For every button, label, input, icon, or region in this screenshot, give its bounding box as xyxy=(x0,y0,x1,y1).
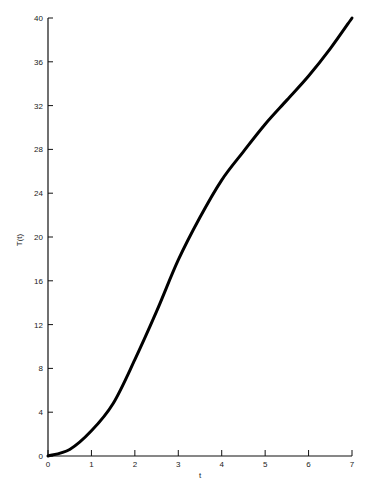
y-tick-label: 4 xyxy=(39,408,44,417)
x-tick-label: 3 xyxy=(176,460,181,469)
x-tick-label: 1 xyxy=(89,460,94,469)
y-tick-label: 8 xyxy=(39,364,44,373)
y-tick-label: 0 xyxy=(39,452,44,461)
x-tick-label: 7 xyxy=(350,460,355,469)
x-tick-label: 0 xyxy=(46,460,51,469)
y-axis-title: T(t) xyxy=(15,233,24,246)
y-tick-label: 24 xyxy=(34,189,43,198)
x-tick-label: 6 xyxy=(306,460,311,469)
y-tick-label: 40 xyxy=(34,14,43,23)
x-axis-title: t xyxy=(199,471,202,480)
x-tick-label: 5 xyxy=(263,460,268,469)
y-axis: 0481216202428323640 xyxy=(34,14,53,461)
x-tick-label: 4 xyxy=(219,460,224,469)
y-tick-label: 12 xyxy=(34,321,43,330)
x-axis: 01234567 xyxy=(46,450,355,469)
y-tick-label: 32 xyxy=(34,102,43,111)
y-tick-label: 16 xyxy=(34,277,43,286)
data-line-T xyxy=(48,18,352,456)
line-chart: 0481216202428323640 01234567 t T(t) xyxy=(0,0,371,491)
y-tick-label: 20 xyxy=(34,233,43,242)
x-tick-label: 2 xyxy=(133,460,138,469)
y-tick-label: 36 xyxy=(34,58,43,67)
y-tick-label: 28 xyxy=(34,145,43,154)
